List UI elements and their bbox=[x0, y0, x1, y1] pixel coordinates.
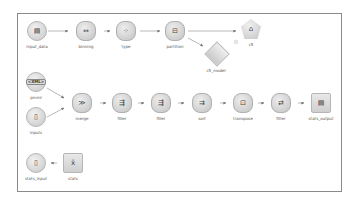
file-source-icon: ▯ bbox=[26, 153, 46, 173]
node-partition[interactable]: ⊟ partition bbox=[160, 21, 190, 49]
node-transpose[interactable]: ⊡ transpose bbox=[228, 93, 258, 121]
xml-source-icon: <XML> bbox=[26, 72, 46, 92]
node-stats_output[interactable]: ▤ stats_output bbox=[306, 93, 336, 121]
transpose-icon: ⊡ bbox=[233, 93, 253, 113]
xml-tag: <XML> bbox=[26, 79, 46, 85]
file-source-icon: ▤ bbox=[27, 21, 47, 41]
node-binning[interactable]: ⇔ binning bbox=[71, 21, 101, 49]
stats-icon: x̄ bbox=[63, 153, 83, 173]
node-filler2[interactable]: ⇶ filler bbox=[146, 93, 176, 121]
node-label: inputs bbox=[11, 130, 61, 135]
node-c5[interactable]: ⌂ c5 bbox=[236, 19, 266, 47]
node-stats[interactable]: x̄ stats bbox=[58, 153, 88, 181]
partition-icon: ⊟ bbox=[165, 21, 185, 41]
node-input_data[interactable]: ▤ input_data bbox=[22, 21, 52, 49]
node-label: c5 bbox=[226, 42, 276, 47]
merge-icon: ≫ bbox=[72, 93, 92, 113]
node-filter[interactable]: ⇄ filter bbox=[266, 93, 296, 121]
binning-icon: ⇔ bbox=[76, 21, 96, 41]
type-icon: ⁘ bbox=[116, 21, 136, 41]
filler-icon: ⇶ bbox=[112, 93, 132, 113]
node-label: type bbox=[101, 44, 151, 49]
node-type[interactable]: ⁘ type bbox=[111, 21, 141, 49]
node-sort[interactable]: ⇉ sort bbox=[187, 93, 217, 121]
node-label: input_data bbox=[12, 44, 62, 49]
node-label: stats_output bbox=[296, 116, 346, 121]
filter-icon: ⇄ bbox=[271, 93, 291, 113]
sort-icon: ⇉ bbox=[192, 93, 212, 113]
c5-model-builder-icon: ⌂ bbox=[241, 19, 261, 39]
c5-model-nugget-icon bbox=[206, 45, 226, 65]
output-file-icon: ▤ bbox=[311, 93, 331, 113]
file-source-icon: ▯ bbox=[26, 107, 46, 127]
filler-icon: ⇶ bbox=[151, 93, 171, 113]
node-c5_model[interactable]: c5_model bbox=[201, 43, 231, 73]
node-pmml[interactable]: <XML> pmml bbox=[21, 72, 51, 100]
node-label: c5_model bbox=[191, 68, 241, 73]
node-label: pmml bbox=[11, 95, 61, 100]
node-stats_input[interactable]: ▯ stats_input bbox=[21, 153, 51, 181]
node-label: stats bbox=[48, 176, 98, 181]
node-label: partition bbox=[150, 44, 200, 49]
node-merge[interactable]: ≫ merge bbox=[67, 93, 97, 121]
node-filler1[interactable]: ⇶ filler bbox=[107, 93, 137, 121]
node-inputs[interactable]: ▯ inputs bbox=[21, 107, 51, 135]
